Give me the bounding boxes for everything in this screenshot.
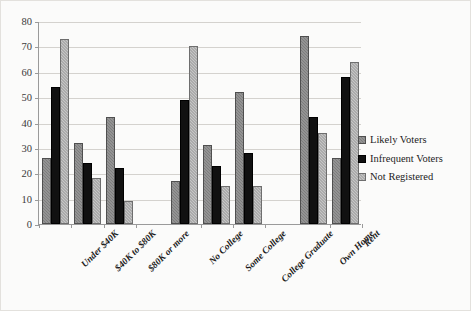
y-axis-tick (35, 22, 39, 23)
bar (189, 46, 198, 224)
legend-label: Likely Voters (370, 135, 426, 146)
legend-item-infrequent-voters[interactable]: Infrequent Voters (358, 154, 443, 165)
x-axis-tick (71, 224, 72, 228)
bar (74, 143, 83, 224)
x-axis-label-college-graduate: College Graduate (280, 229, 335, 284)
bar (42, 158, 51, 224)
x-axis-tick (136, 224, 137, 228)
y-axis-tick (35, 124, 39, 125)
y-axis-tick (35, 174, 39, 175)
legend-label: Infrequent Voters (370, 154, 443, 165)
x-axis-tick (233, 224, 234, 228)
gridline (39, 73, 361, 74)
y-axis-tick-label: 80 (22, 17, 33, 28)
bar (115, 168, 124, 224)
y-axis-tick-label: 50 (22, 93, 33, 104)
legend-swatch-icon (358, 173, 366, 181)
gridline (39, 47, 361, 48)
y-axis-tick-label: 0 (27, 220, 32, 231)
x-axis-label-no-college: No College (208, 229, 246, 267)
bar (253, 186, 262, 224)
bar (244, 153, 253, 224)
y-axis-tick (35, 47, 39, 48)
bar (51, 87, 60, 224)
y-axis-tick-label: 70 (22, 42, 33, 53)
bar (60, 39, 69, 224)
y-axis-tick (35, 149, 39, 150)
y-axis-tick-label: 10 (22, 194, 33, 205)
bar (180, 100, 189, 224)
gridline (39, 22, 361, 23)
bar (106, 117, 115, 224)
x-axis-tick (201, 224, 202, 228)
bar (124, 201, 133, 224)
legend-swatch-icon (358, 136, 366, 144)
bar (83, 163, 92, 224)
plot-area: 01020304050607080 (38, 22, 361, 225)
bar (203, 145, 212, 224)
legend-item-likely-voters[interactable]: Likely Voters (358, 135, 443, 146)
y-axis-tick (35, 200, 39, 201)
x-axis-tick (265, 224, 266, 228)
chart-legend: Likely VotersInfrequent VotersNot Regist… (358, 135, 443, 183)
y-axis-tick-label: 20 (22, 169, 33, 180)
y-axis-tick-label: 30 (22, 144, 33, 155)
bar (300, 36, 309, 224)
bar (341, 77, 350, 224)
bar (221, 186, 230, 224)
bar (309, 117, 318, 224)
bar (235, 92, 244, 224)
x-axis-tick (39, 224, 40, 228)
x-axis-tick (362, 224, 363, 228)
bar (332, 158, 341, 224)
bar (212, 166, 221, 224)
bar (318, 133, 327, 224)
legend-swatch-icon (358, 155, 366, 163)
y-axis-tick-label: 60 (22, 68, 33, 79)
bar-chart-figure: 01020304050607080 Under $40K$40K to $80K… (0, 0, 471, 311)
bar (171, 181, 180, 224)
x-axis-label-some-college: Some College (243, 229, 288, 274)
legend-label: Not Registered (370, 172, 433, 183)
legend-item-not-registered[interactable]: Not Registered (358, 172, 443, 183)
y-axis-tick-label: 40 (22, 118, 33, 129)
bar (92, 178, 101, 224)
gridline (39, 98, 361, 99)
y-axis-tick (35, 73, 39, 74)
x-axis-tick (104, 224, 105, 228)
y-axis-tick (35, 98, 39, 99)
x-axis-tick (330, 224, 331, 228)
